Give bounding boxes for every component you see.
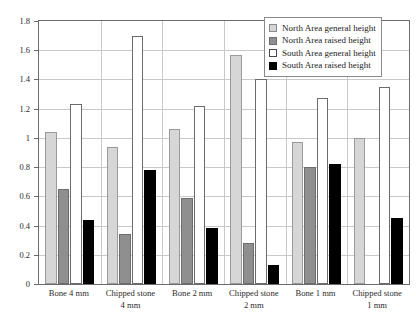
x-axis: Bone 4 mmChipped stone4 mmBone 2 mmChipp… xyxy=(38,288,410,326)
legend-item-label: South Area general height xyxy=(282,49,376,58)
bar xyxy=(230,55,242,284)
y-axis-tick-label: 1.8 xyxy=(19,17,30,26)
x-axis-tick-label-line: Bone 2 mm xyxy=(161,288,223,300)
y-axis-tick-label: 1.4 xyxy=(19,75,30,84)
bar xyxy=(354,138,366,284)
y-axis-tick-label: 1.2 xyxy=(19,104,30,113)
bar xyxy=(206,228,218,284)
y-axis: 00.20.40.60.811.21.41.61.8 xyxy=(0,20,36,285)
x-axis-tick-label-line: 1 mm xyxy=(346,300,408,312)
legend-swatch-icon xyxy=(269,49,277,57)
x-axis-tick-label: Chipped stone1 mm xyxy=(346,288,408,311)
legend-item[interactable]: South Area raised height xyxy=(269,60,376,73)
bar-group xyxy=(162,21,224,284)
x-axis-tick-label: Chipped stone4 mm xyxy=(100,288,162,311)
bar xyxy=(194,106,206,284)
bar xyxy=(45,132,57,284)
bar xyxy=(304,167,316,284)
y-axis-tick-label: 1 xyxy=(26,134,30,143)
bar xyxy=(107,147,119,284)
y-axis-tick-label: 0 xyxy=(26,280,30,289)
bar xyxy=(181,198,193,284)
bar xyxy=(83,220,95,284)
x-axis-tick-label: Bone 4 mm xyxy=(38,288,100,300)
y-axis-tick-label: 1.6 xyxy=(19,46,30,55)
legend-item-label: North Area general height xyxy=(282,24,376,33)
bar xyxy=(58,189,70,284)
bar xyxy=(119,234,131,284)
y-axis-tick-label: 0.8 xyxy=(19,163,30,172)
x-axis-tick-label: Bone 2 mm xyxy=(161,288,223,300)
x-axis-tick-label-line: Bone 1 mm xyxy=(285,288,347,300)
legend-item[interactable]: South Area general height xyxy=(269,47,376,60)
chart-legend: North Area general heightNorth Area rais… xyxy=(264,17,382,77)
legend-swatch-icon xyxy=(269,37,277,45)
bar xyxy=(255,79,267,284)
bar-group xyxy=(101,21,163,284)
legend-item-label: South Area raised height xyxy=(282,61,371,70)
legend-item[interactable]: North Area general height xyxy=(269,22,376,35)
legend-item[interactable]: North Area raised height xyxy=(269,35,376,48)
x-axis-tick-label-line: 2 mm xyxy=(223,300,285,312)
x-axis-tick-label-line: 4 mm xyxy=(100,300,162,312)
bar xyxy=(243,243,255,284)
bar xyxy=(379,87,391,284)
y-axis-tick-label: 0.2 xyxy=(19,251,30,260)
bar xyxy=(70,104,82,284)
bar-chart: 00.20.40.60.811.21.41.61.8 Bone 4 mmChip… xyxy=(0,0,416,326)
bar xyxy=(292,142,304,284)
bar xyxy=(268,265,280,284)
bar-group xyxy=(39,21,101,284)
bar xyxy=(169,129,181,284)
x-axis-tick-label: Bone 1 mm xyxy=(285,288,347,300)
x-axis-tick-label-line: Chipped stone xyxy=(100,288,162,300)
x-axis-tick-label: Chipped stone2 mm xyxy=(223,288,285,311)
legend-swatch-icon xyxy=(269,24,277,32)
y-axis-tick-label: 0.6 xyxy=(19,192,30,201)
bar xyxy=(132,36,144,284)
bar xyxy=(317,98,329,284)
legend-item-label: North Area raised height xyxy=(282,36,371,45)
x-axis-tick-label-line: Chipped stone xyxy=(346,288,408,300)
bar xyxy=(144,170,156,284)
x-axis-tick-label-line: Chipped stone xyxy=(223,288,285,300)
legend-swatch-icon xyxy=(269,62,277,70)
bar xyxy=(329,164,341,284)
y-axis-tick-label: 0.4 xyxy=(19,221,30,230)
bar xyxy=(391,218,403,284)
x-axis-tick-label-line: Bone 4 mm xyxy=(38,288,100,300)
